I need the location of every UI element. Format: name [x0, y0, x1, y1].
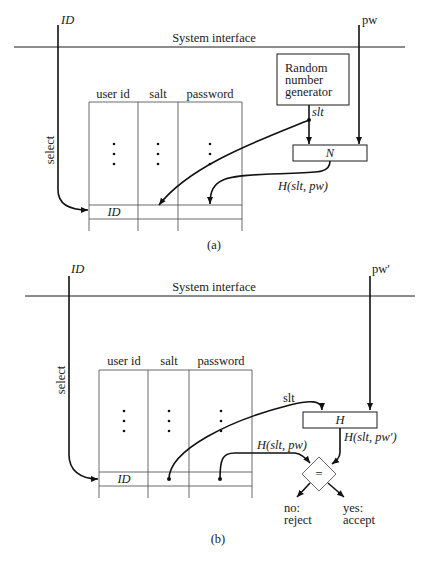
- id-input-label: ID: [60, 13, 74, 27]
- salt-label: slt: [312, 105, 324, 119]
- column-header-salt: salt: [160, 354, 178, 368]
- caption-a: (a): [207, 238, 221, 252]
- diagram-b: System interface ID select pw′ user id s…: [25, 262, 415, 546]
- yes-branch-arrow: [328, 483, 344, 497]
- computed-hash-arrow: [332, 428, 340, 464]
- selected-row-id: ID: [116, 472, 130, 486]
- column-header-password: password: [186, 87, 234, 101]
- hash-output-label: H(slt, pw): [277, 179, 328, 193]
- stored-hash-arrow: [220, 453, 310, 479]
- id-input-label: ID: [70, 262, 84, 276]
- column-header-user-id: user id: [107, 354, 141, 368]
- column-header-user-id: user id: [96, 87, 130, 101]
- selected-row-id: ID: [106, 205, 120, 219]
- hash-box-label: H: [334, 413, 345, 427]
- column-header-password: password: [197, 354, 245, 368]
- row-ellipsis: [113, 143, 212, 166]
- accept-label: accept: [343, 513, 375, 527]
- reject-label: reject: [284, 513, 312, 527]
- system-interface-label: System interface: [172, 280, 256, 294]
- select-label: select: [43, 135, 57, 164]
- caption-b: (b): [211, 532, 226, 546]
- row-ellipsis: [123, 410, 223, 433]
- select-label: select: [54, 365, 68, 394]
- diagram-a: System interface ID select pw user id sa…: [14, 13, 405, 252]
- pw-prime-input-label: pw′: [372, 262, 390, 276]
- computed-hash-label: H(slt, pw′): [343, 430, 397, 444]
- salt-label: slt: [283, 391, 295, 405]
- select-arrow: [58, 25, 88, 210]
- system-interface-label: System interface: [172, 31, 256, 45]
- column-header-salt: salt: [149, 87, 167, 101]
- select-arrow: [69, 276, 98, 479]
- pw-input-label: pw: [362, 13, 377, 27]
- stored-hash-label: H(slt, pw): [256, 438, 307, 452]
- password-salting-diagram: System interface ID select pw user id sa…: [0, 0, 428, 561]
- hash-box-label: N: [325, 146, 335, 160]
- compare-label: =: [315, 467, 322, 481]
- no-branch-arrow: [297, 483, 310, 497]
- rng-label-line3: generator: [285, 85, 333, 99]
